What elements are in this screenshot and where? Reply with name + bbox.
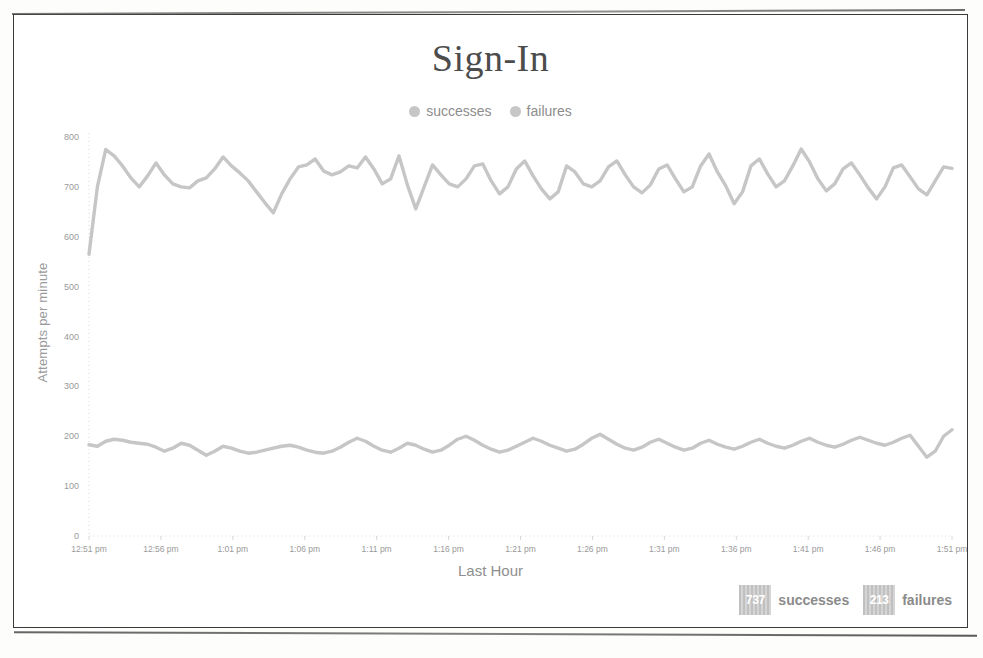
x-tick-label: 1:31 pm [649, 544, 680, 554]
data-series [89, 149, 952, 457]
y-axis-ticks: 0100200300400500600700800 [64, 132, 79, 541]
y-tick-label: 700 [64, 182, 79, 192]
stat-successes[interactable]: 737 successes [739, 585, 849, 615]
stat-value-successes: 737 [746, 593, 765, 607]
footer-stats: 737 successes 213 failures [739, 585, 952, 615]
signin-chart-card: Sign-In successes failures 0100200300400… [14, 15, 967, 627]
plot-area: 0100200300400500600700800 12:51 pm12:56 … [14, 15, 967, 627]
stat-label-failures: failures [902, 592, 952, 608]
x-tick-label: 1:41 pm [793, 544, 824, 554]
axis-lines [89, 133, 952, 536]
page-root: Sign-In successes failures 0100200300400… [0, 0, 983, 658]
x-axis-ticks: 12:51 pm12:56 pm1:01 pm1:06 pm1:11 pm1:1… [71, 536, 967, 554]
stat-badge-successes: 737 [739, 585, 771, 615]
y-tick-label: 400 [64, 332, 79, 342]
stat-failures[interactable]: 213 failures [863, 585, 952, 615]
series-line-successes [89, 149, 952, 254]
x-tick-label: 1:46 pm [865, 544, 896, 554]
x-tick-label: 1:51 pm [937, 544, 967, 554]
y-tick-label: 500 [64, 282, 79, 292]
x-tick-label: 1:16 pm [433, 544, 464, 554]
y-tick-label: 600 [64, 232, 79, 242]
stat-badge-failures: 213 [863, 585, 895, 615]
series-line-failures [89, 430, 952, 457]
x-tick-label: 1:06 pm [289, 544, 320, 554]
y-tick-label: 300 [64, 381, 79, 391]
x-tick-label: 1:36 pm [721, 544, 752, 554]
y-tick-label: 0 [74, 531, 79, 541]
x-tick-label: 1:26 pm [577, 544, 608, 554]
x-tick-label: 12:56 pm [143, 544, 178, 554]
chart-svg: 0100200300400500600700800 12:51 pm12:56 … [14, 15, 967, 627]
x-tick-label: 1:11 pm [362, 544, 392, 554]
x-axis-label: Last Hour [14, 562, 967, 579]
x-tick-label: 1:01 pm [217, 544, 248, 554]
x-tick-label: 12:51 pm [71, 544, 106, 554]
y-tick-label: 100 [64, 481, 79, 491]
y-tick-label: 200 [64, 431, 79, 441]
y-axis-label: Attempts per minute [35, 233, 50, 413]
y-tick-label: 800 [64, 132, 79, 142]
stat-label-successes: successes [778, 592, 849, 608]
stat-value-failures: 213 [870, 593, 889, 607]
x-tick-label: 1:21 pm [505, 544, 536, 554]
